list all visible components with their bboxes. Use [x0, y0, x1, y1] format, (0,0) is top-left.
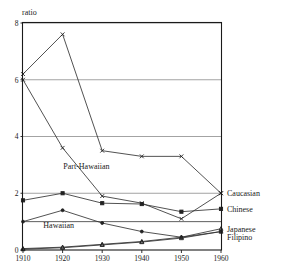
- series-marker: [101, 202, 104, 205]
- y-axis-ticks: 02468: [15, 19, 23, 255]
- data-series-group: [21, 32, 223, 250]
- x-tick-label-1960: 1960: [214, 254, 229, 263]
- series-marker: [61, 192, 64, 195]
- y-axis-title: ratio: [22, 8, 37, 17]
- x-tick-label-1920: 1920: [55, 254, 70, 263]
- series-line: [23, 193, 221, 211]
- inline-annotations: Part-HawaiianHawaiian: [43, 162, 109, 230]
- series-line: [23, 229, 221, 249]
- y-tick-label-8: 8: [15, 19, 19, 28]
- chart-canvas: ratio 02468 191019201930194019501960 Par…: [0, 0, 283, 270]
- y-tick-label-6: 6: [15, 76, 19, 85]
- right-label-filipino: Filipino: [227, 233, 252, 242]
- series-part-hawaiian: [21, 32, 223, 195]
- series-marker: [61, 209, 64, 212]
- x-tick-label-1940: 1940: [134, 254, 149, 263]
- y-tick-label-4: 4: [15, 132, 19, 141]
- right-label-caucasian: Caucasian: [227, 189, 260, 198]
- line-chart: ratio 02468 191019201930194019501960 Par…: [0, 0, 283, 270]
- series-line: [23, 80, 221, 219]
- series-chinese: [21, 192, 222, 214]
- series-marker: [140, 202, 143, 205]
- x-tick-label-1930: 1930: [95, 254, 110, 263]
- series-marker: [101, 222, 104, 225]
- x-axis-ticks: 191019201930194019501960: [16, 250, 229, 263]
- annotation-hawaiian: Hawaiian: [43, 221, 74, 230]
- y-tick-label-2: 2: [15, 189, 19, 198]
- x-tick-label-1950: 1950: [174, 254, 189, 263]
- series-line: [23, 34, 221, 193]
- series-japanese: [21, 227, 223, 251]
- series-right-labels: CaucasianChineseJapaneseFilipino: [227, 189, 260, 242]
- series-marker: [140, 230, 143, 233]
- x-tick-label-1910: 1910: [16, 254, 31, 263]
- gridlines: [23, 23, 221, 193]
- annotation-part-hawaiian: Part-Hawaiian: [63, 162, 109, 171]
- right-label-chinese: Chinese: [227, 205, 253, 214]
- series-caucasian: [21, 78, 223, 221]
- series-marker: [180, 210, 183, 213]
- series-line: [23, 232, 221, 250]
